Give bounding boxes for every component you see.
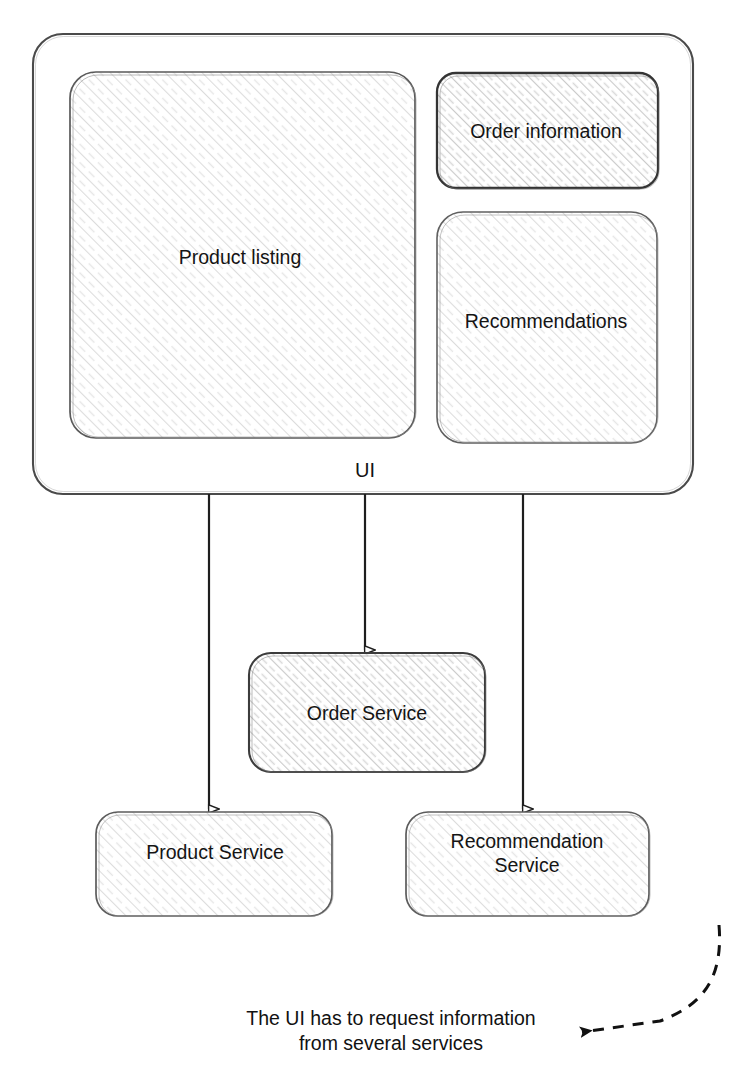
service-order-service-shape [249, 653, 485, 772]
annotation-dashed-arrow [582, 925, 720, 1032]
service-product-service-shape [96, 812, 332, 916]
service-product-service[interactable] [96, 812, 333, 916]
panel-recommendations-shape [437, 212, 657, 443]
panel-product-listing[interactable] [70, 72, 416, 438]
service-order-service[interactable] [249, 653, 486, 772]
panel-product-listing-shape [70, 72, 415, 438]
service-recommendation-service[interactable] [406, 812, 650, 916]
architecture-diagram: Product listing Order information Recomm… [0, 0, 746, 1091]
diagram-canvas [0, 0, 746, 1091]
panel-recommendations[interactable] [437, 212, 658, 443]
service-recommendation-service-shape [406, 812, 649, 916]
panel-order-information[interactable] [437, 73, 659, 189]
panel-order-information-shape [437, 73, 658, 188]
